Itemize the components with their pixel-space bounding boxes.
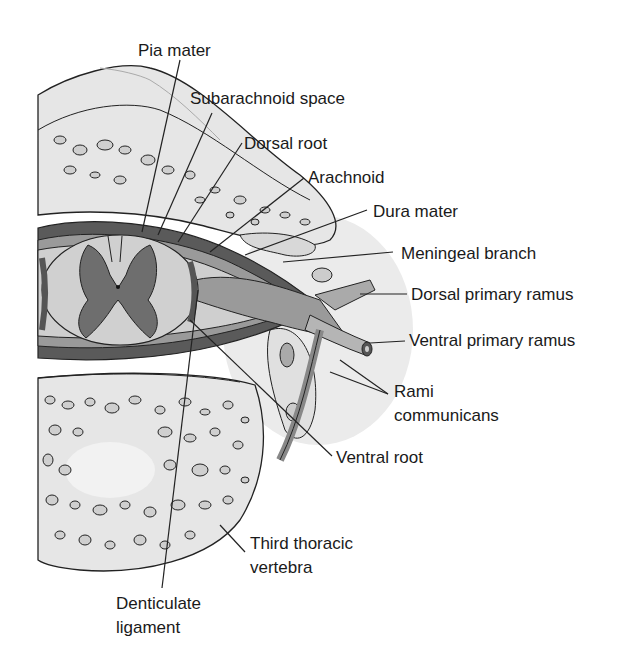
label-ventral-primary-ramus: Ventral primary ramus [409,330,575,351]
label-arachnoid: Arachnoid [308,167,385,188]
label-meningeal-branch: Meningeal branch [401,243,536,264]
label-pia-mater: Pia mater [138,40,211,61]
spinal-cord [42,235,198,345]
vertebral-body [38,373,263,571]
label-ventral-root: Ventral root [336,447,423,468]
label-rami-line2: communicans [394,404,499,428]
label-rami-communicans: Rami communicans [394,380,499,428]
label-rami-line1: Rami [394,380,499,404]
label-denticulate-line2: ligament [116,616,201,640]
label-vertebra-line2: vertebra [250,556,353,580]
label-denticulate-line1: Denticulate [116,592,201,616]
label-third-thoracic-vertebra: Third thoracic vertebra [250,532,353,580]
label-dura-mater: Dura mater [373,201,458,222]
label-dorsal-primary-ramus: Dorsal primary ramus [411,284,573,305]
label-subarachnoid-space: Subarachnoid space [190,88,345,109]
label-dorsal-root: Dorsal root [244,133,327,154]
label-denticulate-ligament: Denticulate ligament [116,592,201,640]
label-vertebra-line1: Third thoracic [250,532,353,556]
